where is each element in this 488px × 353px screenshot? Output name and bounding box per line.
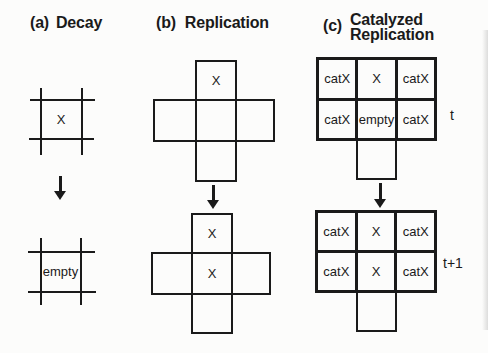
scan-artifact <box>482 30 488 330</box>
lattice-line <box>28 291 96 293</box>
panel-a-label: (a) <box>30 15 49 31</box>
panel-a-cell-t: X <box>41 101 81 138</box>
grid-cell: catX <box>397 213 434 250</box>
panel-c-grid-t1: catX X catX catX X catX <box>315 210 437 293</box>
panel-b-t1-cell-top: X <box>191 213 233 254</box>
down-arrow-icon <box>207 185 219 209</box>
panel-c-title-text: Catalyzed Replication <box>350 12 434 42</box>
lattice-line <box>81 88 83 155</box>
grid-cell: catX <box>319 60 355 98</box>
grid-cell: X <box>358 60 394 98</box>
panel-b-t1-cell-bottom <box>191 293 233 334</box>
panel-b-t1-cell-center: X <box>191 252 233 295</box>
panel-b-t-cell-right <box>235 99 275 142</box>
panel-a-title: (a) Decay <box>30 15 102 31</box>
grid-cell: catX <box>398 60 434 98</box>
time-label-t1: t+1 <box>443 255 463 271</box>
time-label-t: t <box>450 107 454 123</box>
grid-cell: catX <box>397 253 434 290</box>
lattice-line <box>80 238 82 305</box>
panel-c-t1-cell-bottom <box>356 291 397 332</box>
panel-b-label: (b) <box>156 15 176 31</box>
figure-canvas: (a) Decay X empty (b) Replication X X X … <box>0 0 488 353</box>
panel-b-t-cell-bottom <box>195 140 237 182</box>
grid-cell: empty <box>358 101 394 139</box>
panel-a-title-text: Decay <box>56 15 102 31</box>
panel-b-t-cell-left <box>153 99 197 142</box>
down-arrow-icon <box>54 176 66 200</box>
panel-c-label: (c) <box>323 18 342 42</box>
panel-c-title-line2: Replication <box>350 27 434 42</box>
grid-cell: X <box>358 253 395 290</box>
panel-c-grid-t: catX X catX catX empty catX <box>316 57 437 141</box>
grid-cell: X <box>358 213 395 250</box>
grid-cell: catX <box>318 213 355 250</box>
grid-cell: catX <box>319 101 355 139</box>
panel-c-title: (c) Catalyzed Replication <box>323 12 434 42</box>
panel-b-t1-cell-left <box>151 252 193 295</box>
panel-b-t-cell-center <box>195 99 237 142</box>
panel-c-title-line1: Catalyzed <box>350 12 434 27</box>
grid-cell: catX <box>318 253 355 290</box>
panel-c-t-cell-bottom <box>356 139 397 180</box>
panel-b-t1-cell-right <box>231 252 271 295</box>
grid-cell: catX <box>398 101 434 139</box>
down-arrow-icon <box>374 183 386 208</box>
panel-a-cell-t1: empty <box>41 253 80 289</box>
panel-b-title-text: Replication <box>185 15 269 31</box>
lattice-line <box>29 138 94 140</box>
panel-b-t-cell-top: X <box>195 60 237 101</box>
panel-b-title: (b) Replication <box>156 15 269 31</box>
